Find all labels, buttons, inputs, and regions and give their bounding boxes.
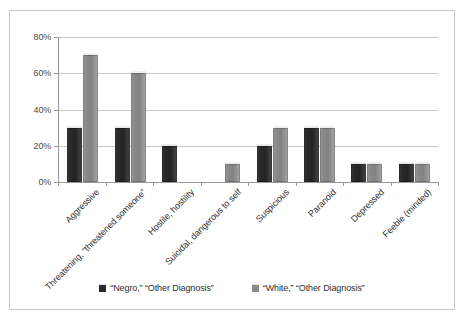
bar-group — [201, 37, 248, 182]
legend-label: “White,” “Other Diagnosis” — [263, 283, 365, 293]
bar — [415, 162, 430, 182]
bar — [131, 71, 146, 182]
y-axis-tick-label: 0% — [38, 177, 51, 187]
y-axis-tick-label: 60% — [34, 68, 51, 78]
bar — [162, 144, 177, 182]
plot-area: 0%20%40%60%80% — [58, 37, 438, 182]
dark-square-swatch — [99, 284, 106, 292]
bar — [351, 162, 366, 182]
bar-group — [154, 37, 201, 182]
x-axis-tick-mark — [153, 182, 154, 186]
legend-entry[interactable]: “White,” “Other Diagnosis” — [252, 283, 365, 293]
bar — [257, 144, 272, 182]
x-axis-tick-mark — [438, 182, 439, 186]
bar — [367, 162, 382, 182]
y-axis-tick-mark — [54, 73, 58, 74]
y-axis-tick-label: 20% — [34, 141, 51, 151]
bar — [273, 126, 288, 182]
x-axis-tick-mark — [248, 182, 249, 186]
bar-group — [343, 37, 390, 182]
bar — [225, 162, 240, 182]
bar — [320, 126, 335, 182]
bar — [399, 162, 414, 182]
legend-label: “Negro,” “Other Diagnosis” — [110, 283, 213, 293]
y-axis-tick-mark — [54, 110, 58, 111]
bar — [304, 126, 319, 182]
bar-group — [391, 37, 438, 182]
bar — [67, 126, 82, 182]
x-axis-tick-mark — [58, 182, 59, 186]
bar-group — [59, 37, 106, 182]
x-axis-tick-mark — [296, 182, 297, 186]
bars-layer — [59, 37, 438, 182]
legend-entry[interactable]: “Negro,” “Other Diagnosis” — [99, 283, 213, 293]
y-axis-tick-mark — [54, 37, 58, 38]
light-square-swatch — [252, 284, 259, 292]
chart-frame: 0%20%40%60%80% AggressiveThreatening, “t… — [9, 10, 455, 310]
bar — [83, 53, 98, 182]
y-axis-tick-mark — [54, 146, 58, 147]
y-axis-tick-label: 40% — [34, 105, 51, 115]
bar-group — [296, 37, 343, 182]
x-axis-tick-mark — [106, 182, 107, 186]
y-axis-tick-label: 80% — [34, 32, 51, 42]
x-axis-tick-mark — [391, 182, 392, 186]
x-axis-tick-mark — [343, 182, 344, 186]
x-axis-tick-mark — [201, 182, 202, 186]
bar-group — [249, 37, 296, 182]
bar — [115, 126, 130, 182]
bar-group — [106, 37, 153, 182]
chart-legend: “Negro,” “Other Diagnosis”“White,” “Othe… — [10, 283, 454, 293]
